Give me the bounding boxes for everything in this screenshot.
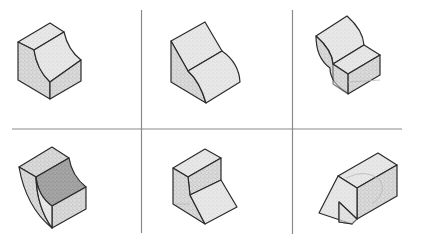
panel-4-shaded-curved-block [19,147,86,228]
panel-6-stepped-box [319,153,397,224]
panel-2-wedge [171,22,240,103]
panel-3-l-block [316,16,380,94]
panel-1-curved-block [18,23,81,99]
panel-5-inclined-block [173,149,237,224]
figure-svg [0,0,429,251]
isometric-drawings-figure [0,0,429,251]
